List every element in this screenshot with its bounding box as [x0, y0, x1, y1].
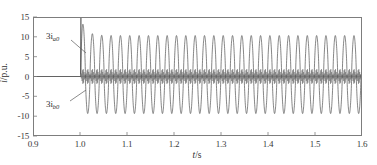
x-tick-1-4: 1.4: [263, 139, 274, 149]
y-tick-10: 10: [4, 32, 29, 42]
annotation-3ia0-subscript: a0: [53, 35, 59, 42]
annotation-3ib0-label: 3i: [46, 99, 53, 109]
y-tick-0: 0: [4, 72, 29, 82]
y-tick-neg15: -15: [4, 131, 29, 141]
waveform-canvas: [34, 18, 361, 135]
x-tick-1-2: 1.2: [169, 139, 180, 149]
x-axis-label: t/s: [193, 150, 202, 160]
x-tick-1-1: 1.1: [122, 139, 133, 149]
x-tick-1-6: 1.6: [357, 139, 368, 149]
chart-figure: i/p.u. t/s 15 10 5 0 -5 -10 -15 0.9 1.0 …: [0, 0, 377, 165]
annotation-3ib0-subscript: b0: [53, 103, 59, 110]
x-tick-1-5: 1.5: [310, 139, 321, 149]
y-tick-neg5: -5: [4, 91, 29, 101]
y-tick-5: 5: [4, 52, 29, 62]
x-tick-1-0: 1.0: [75, 139, 86, 149]
x-tick-0-9: 0.9: [28, 139, 39, 149]
x-tick-1-3: 1.3: [216, 139, 227, 149]
annotation-3ib0: 3ib0: [46, 99, 59, 109]
y-tick-neg10: -10: [4, 111, 29, 121]
plot-area: [33, 17, 362, 136]
annotation-3ia0-label: 3i: [46, 31, 53, 41]
y-tick-15: 15: [4, 12, 29, 22]
annotation-3ia0: 3ia0: [46, 31, 59, 41]
series-3ia0-path: [34, 18, 361, 114]
